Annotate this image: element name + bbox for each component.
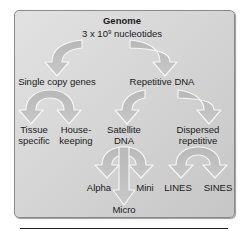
tissue-line1: Tissue [20,124,48,135]
satellite-line2: DNA [114,135,134,146]
genome-subtitle-prefix: 3 x 10 [82,28,108,39]
genome-subtitle-suffix: nucleotides [111,28,162,39]
arrow-genome-to-repetitive [130,40,177,76]
satellite-line1: Satellite [107,124,141,135]
mini-label: Mini [135,182,155,193]
arrow-repetitive-to-satellite [115,90,145,124]
tissue-specific-label: Tissuespecific [14,124,54,146]
arrow-genome-to-single-copy [45,40,82,76]
housekeeping-label: House-keeping [56,124,96,146]
repetitive-dna-label: Repetitive DNA [122,76,202,87]
arrow-repetitive-to-dispersed [178,90,221,124]
dispersed-line2: repetitive [179,135,218,146]
genome-subtitle: 3 x 109 nucleotides [60,27,184,39]
micro-label: Micro [110,204,138,215]
genome-title: Genome [86,15,158,26]
sines-label: SINES [203,182,233,193]
dispersed-line1: Dispersed [177,124,220,135]
alpha-label: Alpha [86,182,112,193]
single-copy-genes-label: Single copy genes [14,76,100,87]
tissue-line2: specific [18,135,50,146]
bottom-rule [20,228,228,229]
arrow-dispersed-split [169,147,227,178]
lines-label: LINES [163,182,193,193]
dispersed-repetitive-label: Dispersedrepetitive [172,124,224,146]
satellite-dna-label: SatelliteDNA [104,124,144,146]
house-line2: keeping [59,135,92,146]
house-line1: House- [61,124,92,135]
arrow-single-copy-split [19,90,81,124]
